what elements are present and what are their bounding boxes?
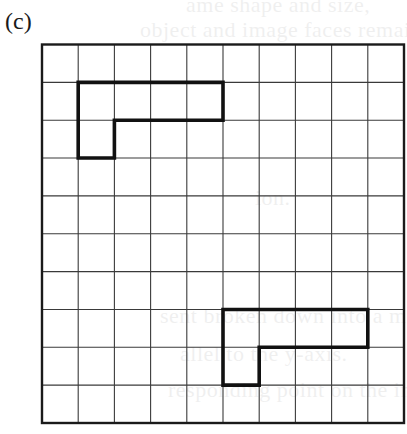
grid-figure: [0, 0, 407, 434]
